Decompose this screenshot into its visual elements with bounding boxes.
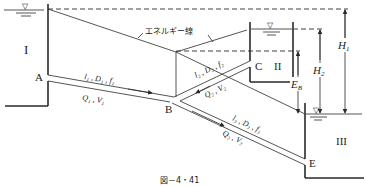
energy-line-label: エネルギー線 [145,26,193,36]
water-level-symbol-II: ▽ [267,21,274,30]
reservoir-II: ▽ C II [250,21,293,82]
head-dimensions: H1 H2 EB [290,10,353,113]
reservoir-III: ▽ III E [305,103,364,178]
pipe-1: l₁ , D₁ , f₁ Q₁ , V₁ A [35,71,174,105]
pipe-3: l₃ , D₃ , f₃ Q₃ , V₃ B [165,101,305,165]
figure-caption: 図－4・41 [160,176,199,185]
pipe-1-flow: Q₁ , V₁ [82,93,106,105]
pipe-3-properties: l₃ , D₃ , f₃ [231,114,263,135]
pipe-3-upper-wall [180,101,305,159]
energy-line: エネルギー線 [48,9,247,52]
pipe-2-flow: Q₂ , V₂ [203,82,227,100]
point-C-label: C [255,60,262,72]
pipe-3-flow-arrow [192,111,224,126]
water-level-symbol-I: ▽ [22,2,29,11]
pipe-2: l₂ , D₂ , f₂ Q₂ , V₂ [174,59,250,101]
pipe-2-properties: l₂ , D₂ , f₂ [193,59,225,80]
three-reservoir-diagram: ▽ I エネルギー線 ▽ C II l₁ , D₁ , f₁ Q₁ , V₁ A [0,0,366,186]
reservoir-II-label: II [274,60,282,72]
point-A-label: A [35,71,43,83]
pipe-1-flow-arrow [128,89,152,93]
point-B-label: B [165,103,172,115]
water-level-symbol-III: ▽ [313,106,320,115]
point-E-label: E [309,157,316,169]
energy-line-leader [138,33,143,38]
reservoir-I: ▽ I [4,2,48,106]
hydraulic-line-to-III [176,52,305,114]
reservoir-I-label: I [24,42,28,57]
reservoir-III-label: III [336,135,347,147]
